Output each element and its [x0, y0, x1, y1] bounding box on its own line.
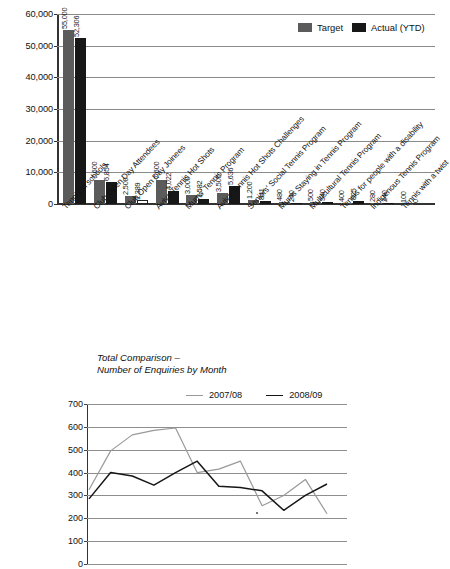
line-chart-legend: 2007/082008/09	[186, 390, 322, 400]
line-y-tick-label: 100	[68, 536, 83, 546]
bar-y-tick-label: 0	[48, 199, 53, 209]
bar-y-tick-label: 20,000	[25, 136, 53, 146]
stray-mark	[256, 512, 258, 514]
line-y-tick-label: 200	[68, 513, 83, 523]
bar-legend-item: Actual (YTD)	[352, 22, 425, 33]
line-y-tick-label: 0	[78, 559, 83, 569]
line-legend-swatch-y0708	[186, 395, 203, 396]
bar-legend-label: Actual (YTD)	[371, 22, 425, 33]
bar-value-label-wrap: 52,306	[72, 27, 81, 48]
line-y-tick-label: 600	[68, 422, 83, 432]
line-y-tick-label: 700	[68, 399, 83, 409]
line-series-2007-08	[89, 428, 327, 514]
bar-legend-label: Target	[317, 22, 343, 33]
bar-legend-item: Target	[298, 22, 343, 33]
bar-actual[interactable]: 540	[322, 202, 333, 204]
line-legend-item: 2007/08	[186, 390, 242, 400]
bar-chart: 010,00020,00030,00040,00050,00060,000 55…	[0, 0, 443, 345]
bar-target[interactable]: 55,000	[63, 30, 74, 204]
bar-y-tick-label: 30,000	[25, 104, 53, 114]
line-gridline	[87, 564, 347, 565]
bar-value-label-wrap: 55,000	[60, 18, 69, 39]
line-y-tick-label: 400	[68, 468, 83, 478]
bar-actual[interactable]: 240	[291, 203, 302, 204]
bar-value-label: 55,000	[60, 7, 69, 28]
bar-y-tick-label: 10,000	[25, 167, 53, 177]
bar-y-tick-label: 60,000	[25, 9, 53, 19]
line-y-tick-label: 300	[68, 490, 83, 500]
bar-actual[interactable]: 240	[383, 203, 394, 204]
line-chart-title: Total Comparison – Number of Enquiries b…	[97, 352, 227, 375]
line-y-tick-mark	[84, 564, 87, 565]
bar-actual[interactable]: 841	[260, 201, 271, 204]
bar-y-tick-label: 40,000	[25, 72, 53, 82]
line-series-svg	[87, 404, 347, 564]
bar-value-label: 52,306	[72, 16, 81, 37]
line-series-2008-09	[89, 461, 327, 510]
bar-legend-swatch-target	[298, 23, 312, 32]
line-chart: Total Comparison – Number of Enquiries b…	[0, 352, 443, 569]
bar-legend-swatch-actual	[352, 23, 366, 32]
line-legend-label: 2008/09	[289, 390, 322, 400]
line-plot-area: 0100200300400500600700	[87, 404, 347, 564]
line-y-tick-label: 500	[68, 445, 83, 455]
bar-group[interactable]: 55,00052,306	[63, 30, 86, 204]
bar-x-axis-labels: Tennis in schoolsClub Open Day Attendees…	[57, 205, 443, 345]
line-legend-swatch-y0809	[266, 395, 283, 396]
line-legend-item: 2008/09	[266, 390, 322, 400]
bar-chart-legend: TargetActual (YTD)	[298, 22, 425, 33]
line-legend-label: 2007/08	[209, 390, 242, 400]
bar-y-tick-label: 50,000	[25, 41, 53, 51]
